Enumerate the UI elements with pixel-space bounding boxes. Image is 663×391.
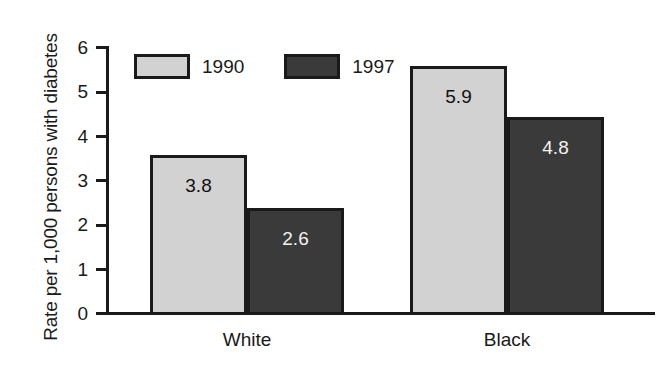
y-tick-mark-0 — [96, 312, 107, 315]
bar-white-1990: 3.8 — [150, 155, 247, 315]
legend-swatch-1990 — [134, 54, 190, 79]
legend-label-1997: 1997 — [352, 57, 394, 76]
bar-chart: Rate per 1,000 persons with diabetes 6 5… — [0, 0, 663, 391]
legend: 1990 1997 — [134, 54, 395, 79]
y-tick-label-3: 3 — [48, 171, 88, 190]
y-tick-label-2: 2 — [48, 215, 88, 234]
legend-entry-1997: 1997 — [284, 54, 394, 79]
y-tick-mark-3 — [96, 179, 107, 182]
y-tick-mark-4 — [96, 135, 107, 138]
category-label-white: White — [147, 330, 347, 349]
y-tick-mark-5 — [96, 91, 107, 94]
bar-value-white-1990: 3.8 — [153, 176, 244, 195]
legend-entry-1990: 1990 — [134, 54, 244, 79]
legend-label-1990: 1990 — [202, 57, 244, 76]
bar-black-1990: 5.9 — [410, 66, 507, 315]
y-tick-label-0: 0 — [48, 304, 88, 323]
bar-value-black-1997: 4.8 — [510, 138, 601, 157]
y-tick-mark-2 — [96, 224, 107, 227]
y-tick-label-4: 4 — [48, 127, 88, 146]
y-tick-label-6: 6 — [48, 38, 88, 57]
y-tick-label-1: 1 — [48, 260, 88, 279]
bar-value-white-1997: 2.6 — [250, 229, 341, 248]
bar-black-1997: 4.8 — [507, 117, 604, 315]
category-label-black: Black — [407, 330, 607, 349]
legend-swatch-1997 — [284, 54, 340, 79]
y-tick-label-5: 5 — [48, 82, 88, 101]
y-tick-mark-1 — [96, 268, 107, 271]
bar-white-1997: 2.6 — [247, 208, 344, 315]
bar-value-black-1990: 5.9 — [413, 87, 504, 106]
y-tick-mark-6 — [96, 46, 107, 49]
